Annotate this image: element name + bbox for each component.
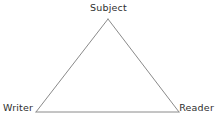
vertex-label-writer: Writer — [3, 102, 33, 113]
triangle-edge-writer-subject — [36, 19, 108, 112]
vertex-label-subject: Subject — [0, 2, 217, 13]
vertex-label-reader: Reader — [179, 102, 214, 113]
rhetorical-triangle-diagram: Subject Writer Reader — [0, 0, 217, 121]
triangle-edge-subject-reader — [108, 19, 179, 112]
